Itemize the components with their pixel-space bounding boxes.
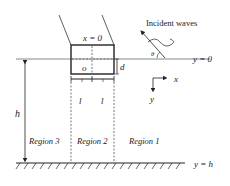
draft-label: d: [120, 62, 125, 72]
theta-arc: [157, 52, 160, 58]
region-3-label: Region 3: [28, 136, 59, 146]
origin-label: o: [82, 63, 87, 73]
depth-label: h: [15, 108, 20, 119]
mooring-line-left: [59, 15, 71, 45]
region-1-label: Region 1: [128, 136, 159, 146]
y-axis-label: y: [149, 94, 154, 104]
theta-label: θ: [151, 50, 155, 57]
x-equals-zero-label: x = 0: [82, 33, 103, 43]
mooring-line-right: [102, 15, 114, 45]
y-bottom-label: y = h: [193, 159, 214, 169]
x-axis-label: x: [173, 74, 178, 84]
region-2-label: Region 2: [76, 136, 108, 146]
half-width-right-label: l: [101, 96, 104, 106]
incident-waves-label: Incident waves: [146, 18, 197, 28]
diagram-canvas: Incident waves θ x = 0 y = 0 y = h o d l…: [0, 0, 230, 186]
seabed-hatching: [16, 163, 180, 169]
y-surface-label: y = 0: [192, 54, 213, 64]
half-width-left-label: l: [79, 96, 82, 106]
